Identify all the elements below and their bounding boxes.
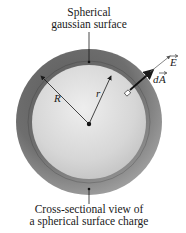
E-label: E <box>169 56 177 68</box>
gaussian-surface-caption: Spherical gaussian surface <box>0 6 178 30</box>
gaussian-surface-caption-line2: gaussian surface <box>0 18 178 30</box>
r-label: r <box>96 87 101 99</box>
dA-label-A: A <box>158 73 166 85</box>
top-leader-dot <box>88 61 91 64</box>
diagram-canvas: R r E d A <box>0 0 186 233</box>
R-label: R <box>53 92 61 104</box>
gaussian-surface-caption-line1: Spherical <box>0 6 178 18</box>
bottom-leader-dot <box>88 188 91 191</box>
E-vector <box>150 56 170 72</box>
surface-charge-caption-line1: Cross-sectional view of <box>0 203 178 215</box>
surface-charge-caption-line2: a spherical surface charge <box>0 215 178 227</box>
surface-charge-caption: Cross-sectional view of a spherical surf… <box>0 203 178 227</box>
